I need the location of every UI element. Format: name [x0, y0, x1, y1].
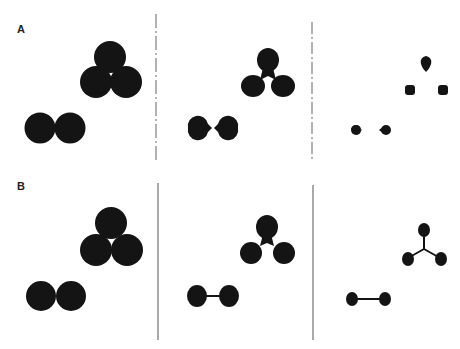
row-b-panel-2	[187, 215, 295, 307]
figure-graphics	[0, 0, 460, 349]
dimer-left-particle	[25, 113, 56, 144]
dimer-right-particle	[55, 113, 86, 144]
dimer-left-particle	[346, 292, 358, 306]
trimer-right-particle	[111, 234, 143, 266]
trimer-left-particle	[402, 252, 414, 266]
trimer-right-particle	[438, 85, 448, 95]
trimer-right-particle	[435, 252, 447, 266]
trimer-top-particle	[95, 207, 127, 239]
dimer-left-particle	[188, 116, 212, 140]
figure: A B	[0, 0, 460, 349]
dimer-left-particle	[26, 281, 56, 311]
dimer-right-particle	[219, 285, 239, 307]
trimer-left-particle	[80, 234, 112, 266]
trimer-right-particle	[273, 242, 295, 264]
dimer-left-particle	[187, 285, 207, 307]
trimer-right-particle	[110, 66, 142, 98]
row-b-panel-3	[346, 223, 447, 306]
row-a-panel-3	[351, 56, 448, 135]
row-a-panel-1	[25, 41, 143, 144]
trimer-top-particle	[421, 56, 432, 72]
trimer-left-particle	[405, 85, 415, 95]
row-a-panel-2	[188, 48, 295, 140]
trimer-top-particle	[418, 223, 430, 237]
dimer-right-tip	[379, 126, 384, 134]
trimer-left-particle	[240, 242, 262, 264]
dimer-left-particle-body	[351, 125, 361, 135]
dimer-right-particle	[214, 116, 238, 140]
dimer-right-particle	[56, 281, 86, 311]
row-b-panel-1	[26, 207, 143, 311]
trimer-left-particle	[80, 66, 112, 98]
dimer-right-particle	[379, 292, 391, 306]
